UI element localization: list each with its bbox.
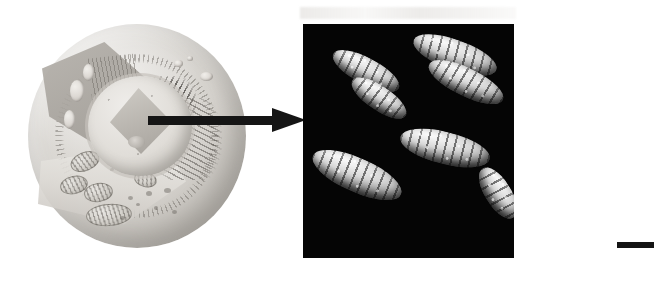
chromosome-micrograph-panel	[303, 24, 514, 258]
cytoplasmic-granule	[128, 196, 133, 200]
cytoplasmic-granule	[146, 191, 152, 196]
vesicle	[187, 56, 193, 61]
figure-root	[0, 0, 654, 285]
figure-continuation-line	[617, 242, 654, 248]
cytoplasmic-granule	[136, 203, 140, 206]
cytoplasmic-granule	[120, 216, 125, 220]
arrow-shaft	[148, 116, 276, 125]
cytoplasmic-granule	[154, 206, 158, 210]
vesicle	[64, 110, 75, 129]
chromosome-7	[472, 162, 514, 225]
arrow-head	[272, 108, 306, 132]
cytoplasmic-granule	[172, 210, 177, 214]
nucleolus	[128, 136, 145, 148]
magnification-arrow-icon	[148, 108, 306, 132]
chromosome-6	[306, 140, 408, 210]
vesicle	[174, 60, 183, 67]
cytoplasmic-granule	[164, 188, 171, 193]
animal-cell-cutaway-illustration	[24, 20, 250, 252]
vesicle	[83, 64, 94, 81]
vesicle	[70, 80, 84, 102]
scan-artifact-band	[300, 7, 516, 19]
chromosome-5	[396, 121, 493, 174]
vesicle	[200, 72, 213, 81]
